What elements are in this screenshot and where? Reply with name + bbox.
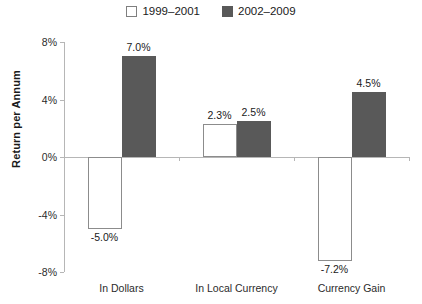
bar-value-label: -5.0%	[79, 231, 131, 243]
y-tick-label: 4%	[42, 94, 57, 106]
y-tick-label: 8%	[42, 36, 57, 48]
bar-chart: 1999–2001 2002–2009 Return per Annum 8%4…	[0, 0, 422, 304]
bar	[203, 124, 237, 157]
y-tick-label: -8%	[38, 266, 57, 278]
x-category-label: In Local Currency	[179, 282, 294, 294]
y-axis-title: Return per Annum	[10, 59, 22, 179]
x-tick-mark	[294, 157, 295, 161]
filled-square-icon	[222, 6, 233, 17]
y-tick-mark	[60, 215, 64, 216]
legend-item-2002-2009: 2002–2009	[222, 6, 296, 18]
x-category-label: In Dollars	[64, 282, 179, 294]
chart-legend: 1999–2001 2002–2009	[0, 6, 422, 18]
bar	[88, 157, 122, 229]
y-tick-label: 0%	[42, 151, 57, 163]
y-tick-label: -4%	[38, 209, 57, 221]
bar	[352, 92, 386, 157]
y-tick-mark	[60, 42, 64, 43]
bar	[318, 157, 352, 261]
bar-value-label: 7.0%	[113, 41, 165, 53]
bar	[122, 56, 156, 157]
legend-item-1999-2001: 1999–2001	[126, 6, 200, 18]
x-tick-mark	[179, 157, 180, 161]
plot-area: 8%4%0%-4%-8% -5.0%7.0%2.3%2.5%-7.2%4.5% …	[64, 42, 409, 272]
legend-label: 1999–2001	[142, 6, 200, 18]
y-tick-mark	[60, 100, 64, 101]
y-tick-mark	[60, 272, 64, 273]
legend-label: 2002–2009	[238, 6, 296, 18]
x-category-label: Currency Gain	[294, 282, 409, 294]
x-tick-mark	[64, 157, 65, 161]
bar-value-label: 4.5%	[343, 77, 395, 89]
bar-value-label: 2.5%	[228, 106, 280, 118]
bar	[237, 121, 271, 157]
x-tick-mark	[409, 157, 410, 161]
open-square-icon	[126, 6, 137, 17]
bar-value-label: -7.2%	[309, 263, 361, 275]
